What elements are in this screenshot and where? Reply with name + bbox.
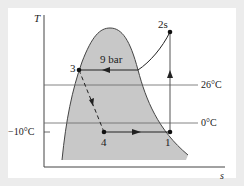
ts-diagram: T s 26°C 0°C −10°C 9 bar 3 2s 1 4 — [0, 0, 244, 186]
state-point-2s — [168, 30, 173, 35]
figure: T s 26°C 0°C −10°C 9 bar 3 2s 1 4 — [0, 0, 244, 186]
state-point-1 — [168, 130, 173, 135]
state-point-4 — [102, 130, 107, 135]
s-axis-label: s — [220, 170, 224, 181]
state-label-1: 1 — [165, 136, 171, 148]
label-0c: 0°C — [201, 117, 217, 128]
t-axis-label: T — [34, 12, 41, 24]
pressure-label: 9 bar — [100, 53, 123, 65]
state-label-2s: 2s — [158, 18, 168, 30]
label-minus10c: −10°C — [8, 126, 35, 137]
state-label-4: 4 — [101, 136, 107, 148]
label-26c: 26°C — [201, 79, 222, 90]
state-label-3: 3 — [70, 62, 76, 74]
state-point-3 — [77, 68, 82, 73]
